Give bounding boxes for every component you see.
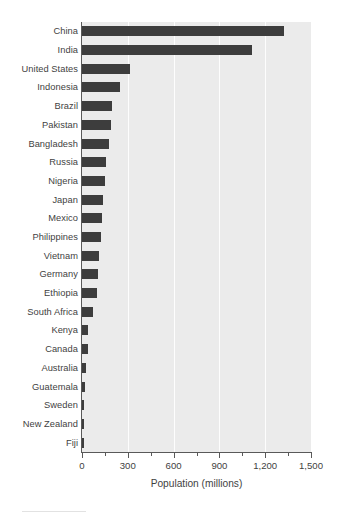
- bar: [82, 325, 88, 335]
- y-axis-tick-label: Kenya: [0, 325, 78, 335]
- x-axis-tick-mark: [219, 453, 220, 458]
- bar: [82, 382, 85, 392]
- bar: [82, 64, 130, 74]
- y-axis-tick-label: South Africa: [0, 307, 78, 317]
- plot-area: [82, 22, 311, 452]
- y-axis-tick-label: Indonesia: [0, 82, 78, 92]
- y-axis-tick-label: Ethiopia: [0, 288, 78, 298]
- bar: [82, 344, 88, 354]
- y-axis-tick-label: Guatemala: [0, 382, 78, 392]
- x-axis-tick-label: 300: [120, 460, 136, 472]
- y-axis-tick-label: China: [0, 26, 78, 36]
- y-axis-tick-label: United States: [0, 64, 78, 74]
- x-axis-minor-tick-mark: [288, 453, 289, 456]
- x-axis-minor-tick-mark: [242, 453, 243, 456]
- bar: [82, 363, 86, 373]
- bar: [82, 176, 105, 186]
- y-axis-tick-label: Japan: [0, 195, 78, 205]
- y-axis-tick-label: Russia: [0, 157, 78, 167]
- bar: [82, 101, 112, 111]
- x-axis-tick-mark: [82, 453, 83, 458]
- bar: [82, 45, 252, 55]
- y-axis-tick-label: Sweden: [0, 400, 78, 410]
- bar: [82, 157, 106, 167]
- x-axis-tick-label: 900: [211, 460, 227, 472]
- bar: [82, 213, 102, 223]
- x-axis-tick-mark: [311, 453, 312, 458]
- x-axis-tick-mark: [174, 453, 175, 458]
- bar: [82, 139, 109, 149]
- bar: [82, 288, 97, 298]
- y-axis-tick-label: Canada: [0, 344, 78, 354]
- population-bar-chart: ChinaIndiaUnited StatesIndonesiaBrazilPa…: [0, 0, 343, 516]
- bar: [82, 400, 84, 410]
- gridline: [128, 22, 129, 452]
- x-axis-minor-tick-mark: [197, 453, 198, 456]
- y-axis-tick-label: New Zealand: [0, 419, 78, 429]
- bar: [82, 232, 101, 242]
- x-axis-tick-label: 0: [79, 460, 84, 472]
- y-axis-category-labels: ChinaIndiaUnited StatesIndonesiaBrazilPa…: [0, 22, 78, 452]
- x-axis-title: Population (millions): [82, 477, 311, 490]
- bar: [82, 26, 284, 36]
- x-axis-tick-label: 600: [166, 460, 182, 472]
- bar: [82, 251, 99, 261]
- gridline: [265, 22, 266, 452]
- y-axis-tick-label: Philippines: [0, 232, 78, 242]
- gridline: [174, 22, 175, 452]
- footer-divider: [22, 511, 86, 512]
- gridline: [219, 22, 220, 452]
- bar: [82, 419, 84, 429]
- bar: [82, 438, 84, 448]
- y-axis-tick-label: Pakistan: [0, 120, 78, 130]
- y-axis-tick-label: Fiji: [0, 438, 78, 448]
- y-axis-tick-label: Bangladesh: [0, 139, 78, 149]
- y-axis-tick-label: Vietnam: [0, 251, 78, 261]
- y-axis-spine: [81, 22, 82, 453]
- x-axis-tick-label: 1,500: [299, 460, 323, 472]
- y-axis-tick-label: Australia: [0, 363, 78, 373]
- x-axis-minor-tick-mark: [151, 453, 152, 456]
- y-axis-tick-label: Mexico: [0, 213, 78, 223]
- bar: [82, 269, 98, 279]
- y-axis-tick-label: Nigeria: [0, 176, 78, 186]
- x-axis-tick-mark: [128, 453, 129, 458]
- x-axis-tick-label: 1,200: [253, 460, 277, 472]
- bar: [82, 195, 103, 205]
- y-axis-tick-label: Germany: [0, 269, 78, 279]
- bar: [82, 307, 93, 317]
- bar: [82, 120, 111, 130]
- y-axis-tick-label: India: [0, 45, 78, 55]
- x-axis-tick-mark: [265, 453, 266, 458]
- y-axis-tick-label: Brazil: [0, 101, 78, 111]
- bar: [82, 82, 120, 92]
- x-axis-minor-tick-mark: [105, 453, 106, 456]
